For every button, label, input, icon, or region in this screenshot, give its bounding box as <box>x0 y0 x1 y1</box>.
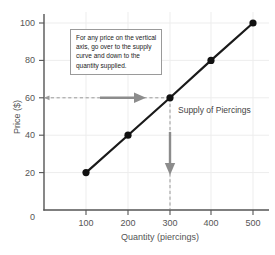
data-point-400-80 <box>207 57 214 64</box>
x-tick-label-200: 200 <box>113 218 143 228</box>
y-tick-label-100: 100 <box>11 18 35 28</box>
y-tick-label-80: 80 <box>11 55 35 65</box>
x-tick-label-100: 100 <box>71 218 101 228</box>
y-axis-ticks <box>39 23 44 173</box>
instruction-annotation-box: For any price on the vertical axis, go o… <box>70 29 162 75</box>
y-tick-label-20: 20 <box>11 168 35 178</box>
y-tick-label-0: 0 <box>11 212 35 222</box>
y-axis-title: Price ($) <box>12 87 22 147</box>
x-tick-label-300: 300 <box>155 218 185 228</box>
direction-arrows <box>100 93 175 175</box>
arrow-down-head <box>165 163 175 175</box>
supply-curve-label: Supply of Piercings <box>178 105 251 115</box>
x-tick-label-500: 500 <box>238 218 268 228</box>
data-point-300-60 <box>166 94 173 101</box>
x-axis-title: Quantity (piercings) <box>90 232 230 242</box>
arrow-right-head <box>134 93 146 103</box>
x-axis-ticks <box>86 210 253 215</box>
supply-curve-chart: 100 80 60 40 20 0 100 200 300 400 500 Pr… <box>0 0 275 255</box>
data-point-200-40 <box>124 132 131 139</box>
guide-dash-arrowhead-left <box>44 95 50 100</box>
x-tick-label-400: 400 <box>196 218 226 228</box>
data-point-100-20 <box>82 169 89 176</box>
data-point-500-100 <box>249 19 256 26</box>
